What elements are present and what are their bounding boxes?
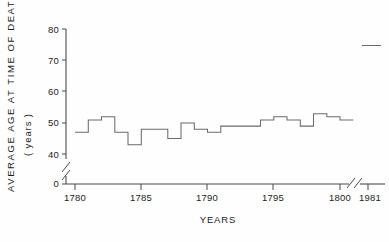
x-tick-label-1780: 1780 <box>64 192 86 203</box>
y-tick-label-70: 70 <box>48 55 59 66</box>
y-tick-label-0: 0 <box>54 178 59 189</box>
x-axis-break-slash-2 <box>354 178 362 188</box>
y-axis-title-line1: AVERAGE AGE AT TIME OF DEATH <box>5 0 16 192</box>
x-tick-label-1785: 1785 <box>130 192 152 203</box>
x-tick-label-1795: 1795 <box>262 192 284 203</box>
y-tick-label-40: 40 <box>48 149 59 160</box>
y-tick-label-50: 50 <box>48 117 59 128</box>
chart-figure: AVERAGE AGE AT TIME OF DEATH ( years ) 8… <box>0 0 389 242</box>
data-step-line <box>75 114 353 145</box>
y-tick-label-60: 60 <box>48 86 59 97</box>
x-axis-break-slash-1 <box>347 178 355 188</box>
x-tick-label-1790: 1790 <box>196 192 218 203</box>
x-tick-label-1800: 1800 <box>329 192 351 203</box>
x-tick-label-1981: 1981 <box>359 192 381 203</box>
y-axis-title-line2: ( years ) <box>22 113 33 156</box>
y-tick-label-80: 80 <box>48 24 59 35</box>
chart-plot-area: AVERAGE AGE AT TIME OF DEATH ( years ) 8… <box>0 0 389 242</box>
y-axis-break-slash-1 <box>62 162 70 172</box>
x-axis-title: YEARS <box>200 214 237 225</box>
